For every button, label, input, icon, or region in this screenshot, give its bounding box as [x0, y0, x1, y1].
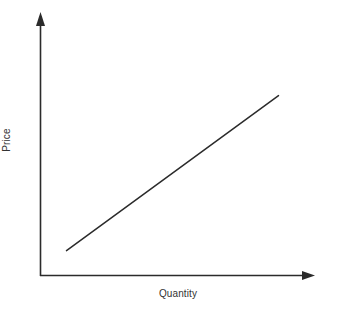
supply-curve-line — [67, 96, 279, 251]
supply-curve-chart: Price Quantity — [0, 0, 338, 315]
x-axis-label: Quantity — [128, 289, 228, 299]
y-axis-arrow-icon — [36, 12, 45, 26]
chart-canvas — [0, 0, 338, 315]
x-axis-arrow-icon — [302, 271, 315, 280]
y-axis-label: Price — [2, 118, 12, 162]
